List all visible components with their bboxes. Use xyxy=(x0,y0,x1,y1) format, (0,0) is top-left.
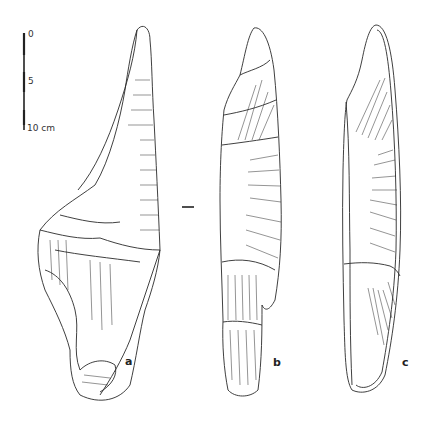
view-c-drawing xyxy=(343,25,401,392)
view-b-drawing xyxy=(220,28,281,396)
scale-tick-5: 5 xyxy=(28,76,34,86)
view-b-label: b xyxy=(273,356,281,369)
artefact-figure: 0 5 10 cm a b c xyxy=(0,0,430,423)
view-c-label: c xyxy=(402,356,409,369)
view-a-drawing xyxy=(38,26,160,400)
drawing-canvas xyxy=(0,0,430,423)
view-a-label: a xyxy=(125,355,132,368)
scale-tick-10: 10 cm xyxy=(27,123,55,133)
scale-tick-0: 0 xyxy=(28,29,34,39)
